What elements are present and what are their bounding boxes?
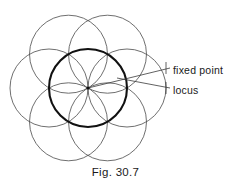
- locus-label: locus: [173, 84, 199, 96]
- fixed-point-marker: [86, 86, 89, 89]
- fixed-point-leader: [88, 68, 170, 88]
- figure-page: fixed point locus Fig. 30.7: [0, 0, 231, 183]
- fixed-point-label: fixed point: [173, 64, 223, 76]
- figure-caption: Fig. 30.7: [0, 166, 231, 178]
